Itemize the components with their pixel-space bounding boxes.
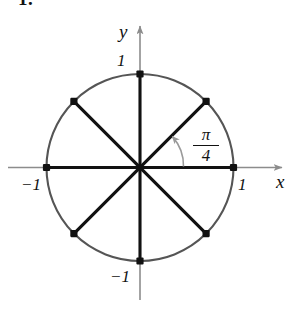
- circle-point-0deg: [230, 164, 237, 171]
- unit-circle-figure: 1.: [0, 0, 299, 309]
- y-axis-tick-label-negative-one: −1: [110, 268, 130, 285]
- circle-point-135deg: [70, 98, 77, 105]
- circle-point-315deg: [203, 230, 210, 237]
- circle-point-225deg: [70, 230, 77, 237]
- angle-label-pi-over-four: π 4: [193, 126, 219, 165]
- y-axis-label: y: [119, 22, 127, 41]
- angle-arc-arrow: [172, 137, 183, 167]
- circle-point-180deg: [43, 164, 50, 171]
- x-axis-tick-label-negative-one: −1: [21, 176, 41, 193]
- circle-point-45deg: [203, 98, 210, 105]
- angle-label-denominator: 4: [193, 147, 219, 165]
- angle-label-numerator: π: [193, 126, 219, 144]
- circle-point-90deg: [136, 70, 143, 77]
- x-axis-label: x: [276, 172, 284, 191]
- x-axis-tick-label-positive-one: 1: [238, 176, 247, 193]
- y-axis-tick-label-positive-one: 1: [117, 52, 126, 69]
- circle-point-270deg: [136, 257, 143, 264]
- figure-canvas: [0, 0, 299, 309]
